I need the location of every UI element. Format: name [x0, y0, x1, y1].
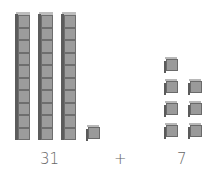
rod-unit-cell: [18, 40, 30, 53]
ones-cube-r2: [166, 81, 178, 93]
rod-unit-cell: [64, 78, 76, 91]
ones-cube-r6: [166, 125, 178, 137]
ones-cube-left: [88, 127, 100, 139]
tens-rod-2: [38, 12, 53, 140]
tens-rod-3: [61, 12, 76, 140]
ones-cube-r3: [190, 81, 202, 93]
plus-operator: +: [114, 150, 127, 168]
rod-unit-cell: [18, 103, 30, 116]
left-value-label: 31: [40, 150, 59, 168]
right-value-label: 7: [177, 150, 187, 168]
rod-unit-cell: [64, 115, 76, 128]
ones-cube-r5: [190, 103, 202, 115]
rod-unit-cell: [64, 53, 76, 66]
rod-unit-cell: [18, 65, 30, 78]
rod-unit-cell: [41, 15, 53, 28]
rod-unit-cell: [18, 128, 30, 141]
rod-unit-cell: [41, 65, 53, 78]
rod-unit-cell: [41, 78, 53, 91]
rod-unit-cell: [41, 90, 53, 103]
rod-unit-cell: [41, 28, 53, 41]
rod-unit-cell: [64, 40, 76, 53]
rod-unit-cell: [64, 103, 76, 116]
rod-unit-cell: [41, 53, 53, 66]
rod-unit-cell: [41, 115, 53, 128]
rod-unit-cell: [18, 78, 30, 91]
rod-unit-cell: [41, 128, 53, 141]
rod-unit-cell: [18, 53, 30, 66]
ones-cube-r4: [166, 103, 178, 115]
ones-cube-r1: [166, 59, 178, 71]
rod-unit-cell: [64, 128, 76, 141]
rod-unit-cell: [64, 15, 76, 28]
rod-unit-cell: [18, 115, 30, 128]
rod-unit-cell: [41, 103, 53, 116]
rod-unit-cell: [41, 40, 53, 53]
rod-unit-cell: [64, 90, 76, 103]
rod-unit-cell: [18, 28, 30, 41]
ones-cube-r7: [190, 125, 202, 137]
rod-unit-cell: [64, 28, 76, 41]
rod-unit-cell: [64, 65, 76, 78]
rod-unit-cell: [18, 90, 30, 103]
rod-unit-cell: [18, 15, 30, 28]
tens-rod-1: [15, 12, 30, 140]
